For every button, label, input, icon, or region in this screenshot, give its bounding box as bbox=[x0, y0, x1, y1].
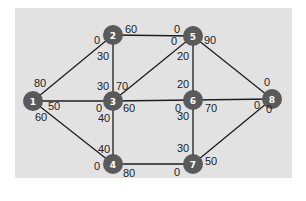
node-label: 6 bbox=[190, 96, 196, 106]
capacity-label-3-5: 0 bbox=[171, 35, 177, 47]
node-label: 4 bbox=[110, 160, 116, 170]
capacity-label-6-8: 70 bbox=[205, 102, 217, 114]
capacity-label-1-4: 60 bbox=[35, 111, 47, 123]
node-6: 6 bbox=[183, 90, 203, 110]
node-label: 1 bbox=[30, 97, 36, 107]
node-label: 2 bbox=[110, 31, 116, 41]
diagram-panel bbox=[15, 8, 292, 178]
capacity-label-6-8: 0 bbox=[254, 99, 260, 111]
node-1: 1 bbox=[23, 91, 43, 111]
capacity-label-5-6: 20 bbox=[177, 78, 189, 90]
capacity-label-2-5: 0 bbox=[174, 23, 180, 35]
capacity-label-1-2: 80 bbox=[34, 77, 46, 89]
capacity-label-1-3: 50 bbox=[48, 100, 60, 112]
capacity-label-3-4: 40 bbox=[98, 143, 110, 155]
node-label: 3 bbox=[110, 97, 116, 107]
capacity-label-1-4: 0 bbox=[94, 160, 100, 172]
capacity-label-4-7: 0 bbox=[174, 166, 180, 178]
capacity-label-7-8: 50 bbox=[205, 155, 217, 167]
node-label: 7 bbox=[190, 160, 196, 170]
capacity-label-5-8: 0 bbox=[264, 76, 270, 88]
capacity-label-7-8: 0 bbox=[266, 103, 272, 115]
capacity-label-2-3: 30 bbox=[97, 50, 109, 62]
capacity-label-2-3: 30 bbox=[97, 80, 109, 92]
node-4: 4 bbox=[103, 154, 123, 174]
capacity-label-6-7: 30 bbox=[177, 142, 189, 154]
capacity-label-3-4: 40 bbox=[98, 112, 110, 124]
node-5: 5 bbox=[183, 26, 203, 46]
capacity-label-3-5: 70 bbox=[116, 80, 128, 92]
node-2: 2 bbox=[103, 25, 123, 45]
network-flow-diagram: 12345678 8005006003030600700404060080020… bbox=[0, 0, 306, 201]
capacity-label-6-7: 30 bbox=[177, 110, 189, 122]
capacity-label-5-8: 90 bbox=[204, 34, 216, 46]
capacity-label-5-6: 20 bbox=[177, 50, 189, 62]
capacity-label-1-2: 0 bbox=[94, 34, 100, 46]
capacity-label-4-7: 80 bbox=[123, 167, 135, 179]
node-label: 5 bbox=[190, 32, 196, 42]
node-3: 3 bbox=[103, 91, 123, 111]
node-7: 7 bbox=[183, 154, 203, 174]
capacity-label-2-5: 60 bbox=[125, 23, 137, 35]
capacity-label-3-6: 60 bbox=[123, 102, 135, 114]
